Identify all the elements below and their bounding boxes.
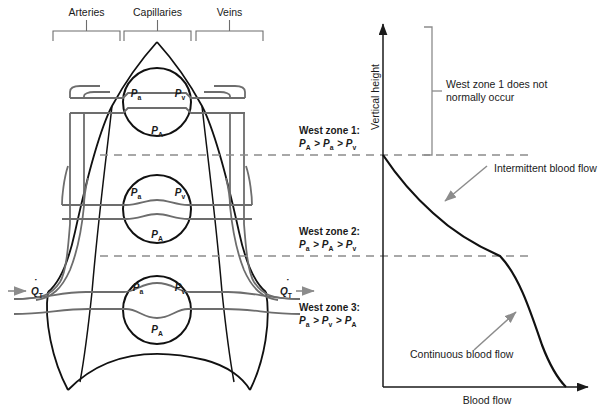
zone-label-3: West zone 3: Pa > Pv > PA [299, 302, 360, 328]
chart: Vertical height Blood flow West zone 1 d… [369, 24, 597, 406]
chart-annotation-intermittent-arrow [445, 166, 487, 201]
pressure-label-palv-middle: PA [151, 229, 163, 242]
bracket-label-arteries: Arteries [68, 6, 104, 18]
bracket-arteries: Arteries [53, 6, 120, 41]
bracket-veins: Veins [196, 6, 263, 41]
zone-3-title: West zone 3: [299, 302, 360, 313]
zone-1-inequality: PA > Pa > Pv [299, 138, 357, 151]
chart-annotation-zone1-line1: West zone 1 does not [446, 78, 547, 90]
figure-root: Arteries Capillaries Veins [0, 0, 599, 417]
lung-outline [47, 42, 268, 390]
zone-2-inequality: Pa > PA > Pv [299, 239, 357, 252]
figure-canvas: Arteries Capillaries Veins [0, 0, 599, 417]
bracket-label-capillaries: Capillaries [133, 6, 182, 18]
artery-trunk-left [14, 86, 110, 300]
zone-label-1: West zone 1: PA > Pa > Pv [299, 125, 360, 151]
chart-x-axis-label: Blood flow [463, 394, 512, 406]
alveolus-group [123, 68, 191, 344]
chart-annotation-continuous-arrow [474, 312, 516, 350]
flow-dot-right: ̇ [287, 279, 289, 281]
pressure-label-pv-upper: Pv [175, 88, 186, 101]
pressure-labels: Pa Pv PA Pa Pv PA Pa Pv PA [131, 88, 186, 337]
chart-annotation-continuous: Continuous blood flow [410, 348, 514, 360]
pressure-label-pa-middle: Pa [131, 187, 142, 200]
vein-trunk-right [204, 86, 300, 300]
pressure-label-pv-lower: Pv [175, 282, 186, 295]
pressure-label-pa-lower: Pa [133, 282, 144, 295]
zone-3-inequality: Pa > Pv > PA [299, 315, 356, 328]
pressure-label-palv-upper: PA [151, 125, 163, 138]
chart-annotation-zone1-line2: normally occur [446, 91, 515, 103]
bracket-label-veins: Veins [217, 6, 243, 18]
chart-annotation-intermittent: Intermittent blood flow [494, 162, 597, 174]
bracket-capillaries: Capillaries [124, 6, 191, 41]
flow-dot-left: ̇ [35, 279, 37, 281]
pressure-label-palv-lower: PA [151, 324, 163, 337]
chart-y-axis-label: Vertical height [369, 64, 381, 130]
flow-label-right: QT [280, 286, 293, 299]
capillary-lower [14, 283, 300, 318]
zone-label-2: West zone 2: Pa > PA > Pv [299, 226, 360, 252]
chart-zone1-bracket [424, 27, 442, 155]
capillary-upper [70, 93, 245, 113]
zone-2-title: West zone 2: [299, 226, 360, 237]
zone-1-title: West zone 1: [299, 125, 360, 136]
flow-label-left: QT [31, 286, 44, 299]
pressure-label-pa-upper: Pa [131, 88, 142, 101]
bracket-group: Arteries Capillaries Veins [53, 6, 263, 41]
capillary-middle [62, 200, 252, 219]
